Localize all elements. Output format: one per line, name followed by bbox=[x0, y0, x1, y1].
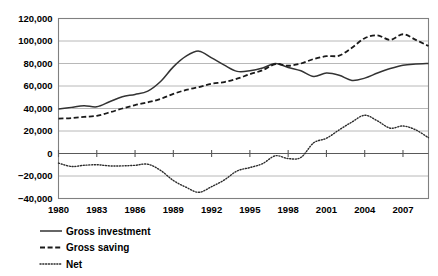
x-axis-tick-label: 2001 bbox=[316, 204, 338, 215]
series-line-gross-saving bbox=[59, 34, 429, 118]
x-axis-tick-label: 1989 bbox=[163, 204, 184, 215]
x-axis-tick-labels: 1980198319861989199219951998200120042007 bbox=[48, 204, 414, 215]
y-axis-tick-label: 100,000 bbox=[18, 35, 52, 46]
chart-legend: Gross investmentGross savingNet bbox=[40, 226, 151, 270]
data-series bbox=[59, 34, 429, 192]
x-axis-tick-label: 1983 bbox=[86, 204, 107, 215]
y-axis-tick-label: 60,000 bbox=[23, 80, 52, 91]
y-axis-tick-label: 20,000 bbox=[23, 125, 52, 136]
y-axis-tick-label: 120,000 bbox=[18, 13, 52, 24]
x-axis-tick-label: 2007 bbox=[392, 204, 413, 215]
legend-label: Net bbox=[66, 259, 83, 270]
x-axis-tick-label: 1986 bbox=[124, 204, 145, 215]
x-axis-tick-label: 1980 bbox=[48, 204, 69, 215]
y-axis-tick-label: 40,000 bbox=[23, 103, 52, 114]
series-line-gross-investment bbox=[59, 51, 429, 109]
y-axis-tick-label: 80,000 bbox=[23, 58, 52, 69]
x-axis-tick-label: 1998 bbox=[278, 204, 299, 215]
y-axis-tick-label: −20,000 bbox=[18, 170, 53, 181]
gridlines bbox=[59, 41, 429, 176]
x-axis-tick-label: 1995 bbox=[239, 204, 261, 215]
line-chart: 120,000100,00080,00060,00040,00020,0000−… bbox=[0, 0, 438, 276]
x-axis-tick-label: 1992 bbox=[201, 204, 222, 215]
legend-label: Gross saving bbox=[66, 242, 129, 253]
y-axis-tick-labels: 120,000100,00080,00060,00040,00020,0000−… bbox=[18, 13, 53, 204]
legend-label: Gross investment bbox=[66, 226, 151, 237]
chart-container: 120,000100,00080,00060,00040,00020,0000−… bbox=[0, 0, 438, 276]
y-axis-tick-label: 0 bbox=[47, 148, 52, 159]
y-axis-tick-label: −40,000 bbox=[18, 193, 53, 204]
x-axis-tick-label: 2004 bbox=[354, 204, 376, 215]
zero-axis-line bbox=[59, 150, 429, 157]
